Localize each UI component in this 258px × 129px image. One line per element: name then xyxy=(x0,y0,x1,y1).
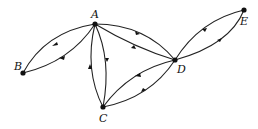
graph-diagram: A B C D E xyxy=(0,0,258,129)
edge-a-c xyxy=(95,24,106,107)
edge-c-d xyxy=(103,60,175,107)
label-d: D xyxy=(176,63,186,76)
edge-e-d xyxy=(175,10,244,60)
label-c: C xyxy=(99,112,108,125)
edge-d-c xyxy=(103,60,175,107)
edge-a-d xyxy=(95,24,175,60)
edge-a-b xyxy=(23,24,95,73)
label-e: E xyxy=(239,15,248,28)
edge-b-a xyxy=(23,24,95,73)
edge-c-a xyxy=(91,24,103,107)
label-a: A xyxy=(90,8,99,21)
node-e xyxy=(241,7,246,12)
arrow-icon xyxy=(52,42,58,46)
graph-svg: A B C D E xyxy=(0,0,258,129)
label-b: B xyxy=(13,60,22,73)
node-d xyxy=(172,57,177,62)
edge-d-a xyxy=(95,24,175,60)
node-c xyxy=(100,104,105,109)
node-a xyxy=(92,21,97,26)
edge-d-e xyxy=(175,10,244,60)
